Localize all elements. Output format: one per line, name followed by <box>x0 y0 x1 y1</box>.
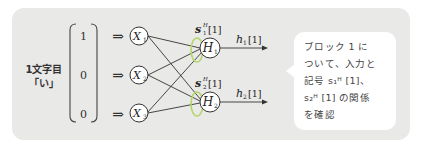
svg-text:2: 2 <box>143 75 147 82</box>
input-node-x1: X 1 <box>130 27 148 45</box>
svg-text:1: 1 <box>203 30 207 36</box>
svg-text:[1]: [1] <box>248 34 261 45</box>
svg-text:X: X <box>132 30 142 43</box>
input-arrow-icon: ⇒ <box>112 67 124 83</box>
svg-text:X: X <box>132 107 142 120</box>
output-label-h2: h 2 [1] <box>236 87 261 100</box>
output-label-h1: h 1 [1] <box>236 33 261 46</box>
arrow-head-icon <box>262 100 268 105</box>
svg-text:s: s <box>195 77 201 90</box>
callout-line: ブロック 1 に <box>304 38 392 55</box>
vector-value-1: 1 <box>80 30 87 43</box>
hidden-node-h2: H 2 <box>200 92 220 112</box>
callout-line: を確認 <box>304 106 392 123</box>
state-label-s1: s H 1 [1] <box>195 22 221 36</box>
svg-text:1: 1 <box>143 36 147 43</box>
input-node-x2: X 2 <box>130 66 148 84</box>
svg-text:1: 1 <box>243 39 247 46</box>
svg-text:[1]: [1] <box>208 78 221 89</box>
input-arrow-icon: ⇒ <box>112 28 124 44</box>
svg-text:3: 3 <box>143 113 147 120</box>
left-bracket <box>70 24 76 122</box>
callout-text: ブロック 1 に ついて、入力と 記号 s₁ᴴ [1]、 s₂ᴴ [1] の関係… <box>304 38 392 123</box>
vector-value-2: 0 <box>80 69 87 82</box>
svg-text:H: H <box>202 41 214 55</box>
connections <box>147 36 202 113</box>
right-bracket <box>91 24 97 122</box>
svg-text:2: 2 <box>203 84 207 90</box>
svg-text:1: 1 <box>214 48 218 55</box>
svg-text:H: H <box>202 95 214 109</box>
input-arrow-icon: ⇒ <box>112 106 124 122</box>
svg-text:2: 2 <box>214 102 218 109</box>
callout-line: ついて、入力と <box>304 55 392 72</box>
svg-text:[1]: [1] <box>208 24 221 35</box>
svg-text:[1]: [1] <box>248 88 261 99</box>
hidden-node-h1: H 1 <box>200 38 220 58</box>
vector-value-3: 0 <box>80 108 87 121</box>
arrow-head-icon <box>262 46 268 51</box>
svg-text:2: 2 <box>243 93 247 100</box>
svg-text:X: X <box>132 69 142 82</box>
input-node-x3: X 3 <box>130 104 148 122</box>
callout-line: s₂ᴴ [1] の関係 <box>304 89 392 106</box>
callout-line: 記号 s₁ᴴ [1]、 <box>304 72 392 89</box>
svg-text:s: s <box>195 23 201 36</box>
state-label-s2: s H 2 [1] <box>195 76 221 90</box>
